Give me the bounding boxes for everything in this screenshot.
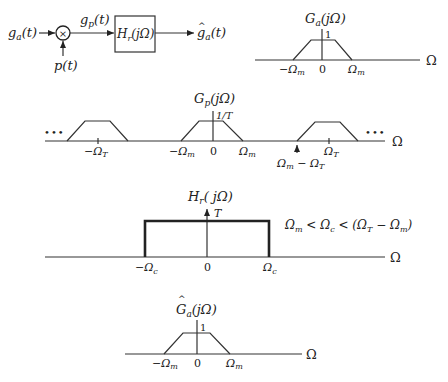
filter-hr-title: Hr( jΩ) <box>187 189 233 206</box>
cutoff-condition: Ωm < Ωc < (ΩT − Ωm) <box>284 218 413 234</box>
tick-omega-m-minus-omega-t: Ωm − ΩT <box>276 157 325 171</box>
spectrum-gp-replica-right <box>297 122 358 141</box>
tick-zero: 0 <box>319 63 326 76</box>
filter-hr-axis-label: Ω <box>390 250 401 265</box>
tick-neg-omega-m: −Ωm <box>152 357 178 371</box>
spectrum-ga-axis-label: Ω <box>426 53 437 68</box>
filter-hr-gain-label: T <box>214 207 223 220</box>
spectrum-gp-title: Gp(jΩ) <box>194 91 235 108</box>
tick-omega-t: ΩT <box>323 145 339 159</box>
input-signal-label: ga(t) <box>8 25 37 42</box>
tick-zero: 0 <box>210 145 217 158</box>
filter-block-label: Hr(jΩ) <box>116 27 155 43</box>
tick-omega-m: Ωm <box>238 145 256 159</box>
spectrum-ga-hat: ^ Ga(jΩ) 1 −Ωm 0 Ωm Ω <box>125 294 317 371</box>
filter-hr: Hr( jΩ) T Ωm < Ωc < (ΩT − Ωm) −Ωc 0 Ωc Ω <box>45 189 413 276</box>
tick-neg-omega-t: −ΩT <box>84 145 108 159</box>
tick-neg-omega-m: −Ωm <box>279 63 305 77</box>
spectrum-gp-baseband <box>181 121 243 141</box>
tick-omega-m: Ωm <box>225 357 243 371</box>
sampling-signal-label: p(t) <box>54 58 78 73</box>
ellipsis-left: ••• <box>44 127 65 138</box>
spectrum-ga: Ga(jΩ) 1 −Ωm 0 Ωm Ω <box>255 11 437 77</box>
ellipsis-right: ••• <box>365 127 386 138</box>
spectrum-ga-hat-axis-label: Ω <box>306 347 317 362</box>
output-hat-accent: ^ <box>198 21 206 31</box>
spectrum-gp: Gp(jΩ) 1/T ••• ••• −ΩT −Ωm 0 Ωm Ωm − ΩT … <box>44 91 403 171</box>
spectrum-ga-hat-title: Ga(jΩ) <box>176 302 217 319</box>
block-diagram: ga(t) × p(t) gp(t) Hr(jΩ) ga(t) ^ <box>8 12 226 73</box>
tick-neg-omega-m: −Ωm <box>169 145 195 159</box>
tick-zero: 0 <box>204 261 211 274</box>
sampling-reconstruction-diagram: ga(t) × p(t) gp(t) Hr(jΩ) ga(t) ^ Ga(jΩ)… <box>0 0 448 382</box>
multiplier-symbol: × <box>59 28 67 39</box>
tick-omega-c: Ωc <box>262 261 277 276</box>
spectrum-ga-peak-label: 1 <box>325 29 331 40</box>
intermediate-signal-label: gp(t) <box>80 12 109 29</box>
tick-zero: 0 <box>194 357 201 370</box>
spectrum-ga-title: Ga(jΩ) <box>305 11 346 28</box>
spectrum-gp-axis-label: Ω <box>392 134 403 149</box>
spectrum-gp-peak-label: 1/T <box>216 110 234 121</box>
tick-omega-m: Ωm <box>347 63 365 77</box>
tick-neg-omega-c: −Ωc <box>135 261 158 276</box>
spectrum-ga-hat-peak-label: 1 <box>200 322 206 333</box>
